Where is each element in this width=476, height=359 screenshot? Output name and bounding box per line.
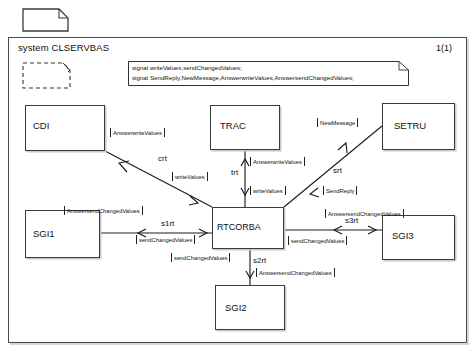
signal-list-trt-answerwritevalues: AnswerwriteValues <box>250 157 305 166</box>
block-sgi2-label: SGI2 <box>225 302 247 313</box>
signal-list-trt-writevalues: writeValues <box>250 186 286 195</box>
channel-name-crt: crt <box>158 154 167 163</box>
channel-name-srt: srt <box>333 166 342 175</box>
signal-list-s3rt-answersendchangedvalues: AnswersendChangedValues <box>325 209 404 218</box>
signal-list-s1rt-sendchangedvalues: sendChangedValues <box>136 235 195 244</box>
block-sgi3-label: SGI3 <box>392 230 414 241</box>
block-sgi1-label: SGI1 <box>33 228 55 239</box>
block-cdi-label: CDI <box>33 120 49 131</box>
page-number: 1(1) <box>436 43 452 53</box>
channel-name-trt: trt <box>231 168 238 177</box>
signal-list-srt-newmessage: NewMessage <box>317 118 358 127</box>
signal-declaration-text: signal writeValues,sendChangedValues; si… <box>132 63 354 82</box>
channel-name-s1rt: s1rt <box>161 219 174 228</box>
block-setru-label: SETRU <box>394 120 426 131</box>
signal-declaration-line-1: signal writeValues,sendChangedValues; <box>132 63 354 73</box>
sdl-system-diagram-page: system CLSERVBAS 1(1) signal writeValues… <box>0 0 476 359</box>
signal-list-crt-answerwritevalues: AnswerwriteValues <box>110 128 165 137</box>
channel-name-s2rt: s2rt <box>253 256 266 265</box>
page-title: system CLSERVBAS <box>18 42 109 53</box>
signal-list-srt-sendreply: SendReply <box>323 186 357 195</box>
signal-declaration-line-2: signal SendReply,NewMessage,AnswerwriteV… <box>132 73 354 83</box>
block-rtcorba-label: RTCORBA <box>217 222 261 232</box>
signal-declaration-box: signal writeValues,sendChangedValues; si… <box>128 61 409 86</box>
signal-list-crt-writevalues: writeValues <box>172 172 208 181</box>
signal-list-s2rt-answersendchangedvalues: AnswersendChangedValues <box>256 268 335 277</box>
text-extension-symbol <box>22 62 72 89</box>
signal-list-s2rt-sendchangedvalues: sendChangedValues <box>171 253 230 262</box>
signal-list-s3rt-sendchangedvalues: sendChangedValues <box>288 236 347 245</box>
page-document-icon <box>22 8 70 32</box>
signal-list-s1rt-answersendchangedvalues: AnswersendChangedValues <box>64 206 143 215</box>
block-trac-label: TRAC <box>220 120 246 131</box>
